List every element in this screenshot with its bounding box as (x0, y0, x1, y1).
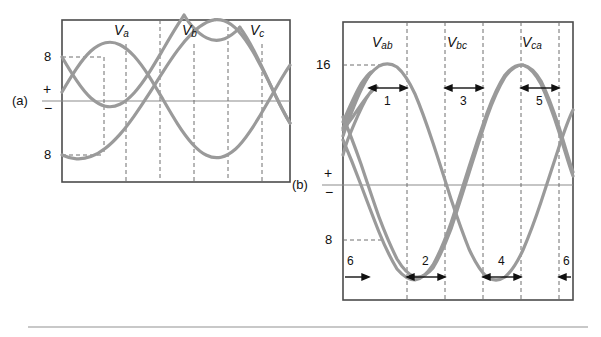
panel-a-group (42, 15, 290, 182)
panel-b-signal-label-vbc: Vbc (447, 34, 467, 51)
panel-a-tag: (a) (12, 93, 28, 108)
figure-canvas: (a) + − 8 8 Va Vb Vc (b) + − 16 8 Vab Vb… (0, 0, 601, 337)
panel-b-signal-vbc-sub: bc (456, 40, 467, 51)
panel-b-interval-6-right: 6 (563, 254, 570, 268)
panel-b-signal-vab-sub: ab (381, 40, 392, 51)
panel-b-signal-vbc-v: V (447, 34, 456, 50)
panel-a-ytick-lower: 8 (44, 147, 51, 162)
panel-a-signal-va-sub: a (123, 28, 129, 39)
panel-b-plus-sign: + (324, 166, 332, 180)
panel-b-interval-1: 1 (384, 94, 391, 108)
panel-a-signal-label-vc: Vc (250, 22, 264, 39)
panel-b-top-arrow-group (369, 85, 559, 91)
panel-b-interval-4: 4 (498, 254, 505, 268)
panel-b-ytick-lower: 8 (325, 232, 332, 247)
panel-b-commutation-lines (407, 22, 559, 300)
panel-b-interval-6-left: 6 (347, 254, 354, 268)
panel-a-signal-label-va: Va (114, 22, 129, 39)
panel-a-minus-sign: − (44, 101, 52, 115)
panel-a-construction-lines (62, 57, 104, 155)
panel-a-ytick-upper: 8 (44, 49, 51, 64)
panel-a-plus-sign: + (43, 82, 51, 96)
panel-a-signal-vb-sub: b (191, 28, 197, 39)
panel-b-bottom-arrow-group (345, 274, 571, 280)
panel-b-signal-label-vca: Vca (522, 34, 542, 51)
panel-b-interval-3: 3 (460, 94, 467, 108)
panel-b-tag: (b) (292, 177, 308, 192)
panel-b-minus-sign: − (325, 185, 333, 199)
panel-b-signal-label-vab: Vab (372, 34, 392, 51)
panel-a-signal-vc-v: V (250, 22, 259, 38)
panel-b-ytick-upper: 16 (316, 57, 330, 72)
panel-b-signal-vca-sub: ca (531, 40, 542, 51)
panel-a-signal-label-vb: Vb (182, 22, 197, 39)
panel-b-signal-vca-v: V (522, 34, 531, 50)
panel-b-plot-box (343, 22, 573, 300)
waveform-figure-svg (0, 0, 601, 337)
panel-b-group (322, 22, 573, 300)
panel-b-interval-2: 2 (422, 254, 429, 268)
panel-a-signal-va-v: V (114, 22, 123, 38)
panel-b-interval-5: 5 (536, 94, 543, 108)
panel-b-signal-vab-v: V (372, 34, 381, 50)
panel-a-signal-vc-sub: c (259, 28, 264, 39)
panel-a-signal-vb-v: V (182, 22, 191, 38)
